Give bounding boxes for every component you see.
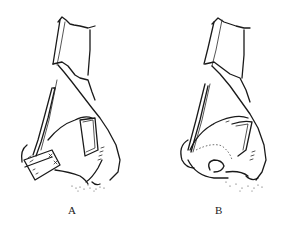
panel-a-nostril [86, 160, 102, 182]
panel-b-forehead-cut [212, 18, 250, 28]
panel-b-columella [226, 172, 248, 177]
panel-a-pedicle-mid [36, 88, 55, 156]
panel-a-sutures [98, 147, 104, 160]
panel-a-columella [55, 170, 88, 184]
panel-b-dorsum [204, 22, 214, 64]
panel-b-sutures [250, 151, 255, 160]
panel-b-nose-dorsum [212, 66, 266, 180]
panel-b-stipple [225, 181, 262, 191]
panel-b-flap-bulge [181, 140, 194, 168]
panel-b-flap-edge [232, 121, 252, 156]
panel-b-fold-line [196, 145, 232, 160]
surgical-illustration: A B [0, 0, 290, 229]
panel-a-defect-inner [83, 120, 95, 152]
panel-label-a: A [68, 204, 76, 216]
panel-a-dorsum [53, 20, 60, 64]
panel-b-nostril-curl [209, 160, 224, 172]
panel-a-forehead-cut [58, 17, 95, 28]
panel-a-drawing [22, 17, 120, 192]
panel-a-ala [48, 117, 92, 140]
panel-b-pedicle-line [193, 84, 210, 152]
panel-a-flap-mark2 [54, 161, 57, 164]
panel-a-stipple [71, 185, 104, 192]
panel-b-right-edge [242, 30, 244, 78]
panel-label-b: B [215, 204, 222, 216]
panel-a-alar-base [92, 182, 100, 185]
panel-a-right-edge [88, 30, 90, 75]
panel-b-drawing [181, 18, 266, 192]
panel-a-flap-mark1 [49, 154, 52, 157]
drawing-canvas [0, 0, 290, 229]
